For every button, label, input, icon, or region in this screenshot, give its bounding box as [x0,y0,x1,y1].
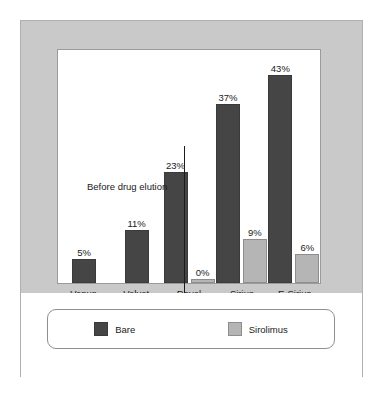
bar-wrap-sirius-sirolimus: 9% [243,50,267,283]
bar-wrap-e-sirius-sirolimus: 6% [295,50,319,283]
bar-ravel-sirolimus[interactable] [191,279,215,283]
bar-wrap-velvet-bare: 11% [125,50,149,283]
legend-label-sirolimus: Sirolimus [249,324,288,335]
bar-velvet-bare[interactable] [125,230,149,283]
bar-wrap-ravel-sirolimus: 0% [191,50,215,283]
bar-value-label: 6% [300,242,314,253]
bar-e-sirius-sirolimus[interactable] [295,254,319,283]
bar-venus-bare[interactable] [72,259,96,283]
legend-item-bare[interactable]: Bare [94,322,135,336]
legend-label-bare: Bare [115,324,135,335]
bar-group-e-sirius: 43% 6% [268,50,320,283]
bar-group-venus: 5% [58,50,110,283]
bar-sirius-bare[interactable] [216,104,240,283]
bar-value-label: 5% [77,247,91,258]
annotation-before-drug-elution: Before drug elution [87,181,167,192]
plot-inner: 5% 11% 23% [58,50,320,283]
bar-value-label: 37% [218,92,237,103]
legend-box: Bare Sirolimus [47,309,335,349]
bar-value-label: 9% [248,227,262,238]
bar-group-velvet: 11% [110,50,162,283]
bar-value-label: 0% [196,267,210,278]
bar-value-label: 43% [271,63,290,74]
chart-figure: 5% 11% 23% [20,20,363,377]
bar-value-label: 11% [127,218,145,229]
bar-wrap-e-sirius-bare: 43% [268,50,292,283]
bar-wrap-sirius-bare: 37% [216,50,240,283]
bar-value-label: 23% [166,160,185,171]
legend-item-sirolimus[interactable]: Sirolimus [228,322,288,336]
bar-sirius-sirolimus[interactable] [243,239,267,283]
bar-groups: 5% 11% 23% [58,50,320,283]
legend-swatch-bare-icon [94,322,108,336]
bar-group-ravel: 23% 0% [163,50,215,283]
bar-wrap-venus-bare: 5% [72,50,96,283]
legend-swatch-sirolimus-icon [228,322,242,336]
legend-area: Bare Sirolimus [21,293,362,377]
bar-group-sirius: 37% 9% [215,50,267,283]
bar-e-sirius-bare[interactable] [268,75,292,283]
plot-area: 5% 11% 23% [57,49,321,284]
